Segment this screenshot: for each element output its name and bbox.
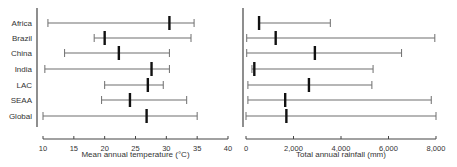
chart-canvas: 10152025303540Mean annual temperature (°… xyxy=(0,0,457,167)
category-label: Global xyxy=(9,112,32,121)
category-label: Africa xyxy=(12,19,33,28)
x-tick-label: 0 xyxy=(244,144,248,153)
category-label: India xyxy=(15,65,33,74)
x-tick-label: 15 xyxy=(70,144,78,153)
x-axis-title: Mean annual temperature (°C) xyxy=(81,150,189,159)
x-tick-label: 10 xyxy=(39,144,47,153)
temperature-panel: 10152025303540Mean annual temperature (°… xyxy=(9,8,232,159)
category-label: SEAA xyxy=(11,96,33,105)
category-label: China xyxy=(11,49,32,58)
category-label: LAC xyxy=(16,81,32,90)
x-tick-label: 40 xyxy=(224,144,232,153)
x-tick-label: 8,000 xyxy=(427,144,446,153)
x-tick-label: 35 xyxy=(193,144,201,153)
rainfall-panel: 02,0004,0006,0008,000Total annual rainfa… xyxy=(243,8,445,159)
x-axis-title: Total annual rainfall (mm) xyxy=(296,150,386,159)
category-label: Brazil xyxy=(12,34,32,43)
